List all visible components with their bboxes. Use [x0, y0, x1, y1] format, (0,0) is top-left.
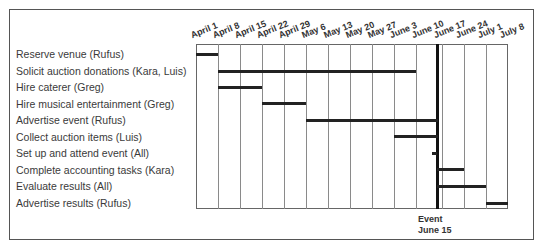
grid-line: [306, 44, 307, 209]
task-bar: [486, 202, 508, 205]
grid-line: [372, 44, 373, 209]
event-label: Event: [418, 214, 443, 225]
task-label: Evaluate results (All): [16, 180, 112, 192]
grid-line: [350, 44, 351, 209]
task-bar: [306, 119, 438, 122]
task-label: Hire caterer (Greg): [16, 81, 104, 93]
task-bar: [218, 86, 262, 89]
task-label: Advertise event (Rufus): [16, 114, 126, 126]
grid-line: [262, 44, 263, 209]
task-bar: [394, 135, 438, 138]
grid-line: [416, 44, 417, 209]
task-label: Set up and attend event (All): [16, 147, 149, 159]
task-bar: [437, 168, 464, 171]
event-date-label: June 15: [418, 225, 452, 236]
grid-line: [328, 44, 329, 209]
task-label: Collect auction items (Luis): [16, 131, 142, 143]
grid-line: [486, 44, 487, 209]
task-label: Solicit auction donations (Kara, Luis): [16, 65, 186, 77]
task-bar: [196, 53, 218, 56]
task-label: Hire musical entertainment (Greg): [16, 98, 174, 110]
task-bar: [218, 70, 416, 73]
grid-line: [394, 44, 395, 209]
grid-line: [218, 44, 219, 209]
task-bar: [437, 185, 486, 188]
task-label: Reserve venue (Rufus): [16, 48, 124, 60]
task-label: Complete accounting tasks (Kara): [16, 164, 174, 176]
task-bar: [262, 102, 306, 105]
grid-line: [240, 44, 241, 209]
task-bar: [432, 152, 437, 155]
task-label: Advertise results (Rufus): [16, 197, 131, 209]
grid-line: [284, 44, 285, 209]
